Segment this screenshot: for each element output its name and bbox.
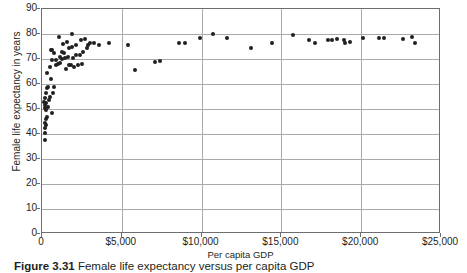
y-axis-title: Female life expectancy in years xyxy=(11,22,22,182)
x-axis-tick-label: $10,000 xyxy=(183,236,219,247)
x-axis-tick-mark xyxy=(440,233,441,237)
figure-caption-text: Female life expectancy versus per capita… xyxy=(78,260,315,272)
x-axis-title: Per capita GDP xyxy=(41,249,440,260)
x-axis-tick-mark xyxy=(280,233,281,237)
figure-caption-label: Figure 3.31 xyxy=(14,260,75,272)
x-axis-tick-mark xyxy=(201,233,202,237)
figure-caption: Figure 3.31 Female life expectancy versu… xyxy=(14,260,314,273)
x-axis-tick-label: $15,000 xyxy=(262,236,298,247)
x-axis-tick-mark xyxy=(41,233,42,237)
x-axis-tick-mark xyxy=(360,233,361,237)
x-axis-tick-label: $5,000 xyxy=(106,236,137,247)
x-axis-tick-label: 0 xyxy=(38,236,44,247)
x-axis-tick-label: $20,000 xyxy=(342,236,378,247)
x-axis-tick-mark xyxy=(121,233,122,237)
x-axis-tick-label: $25,000 xyxy=(422,236,458,247)
